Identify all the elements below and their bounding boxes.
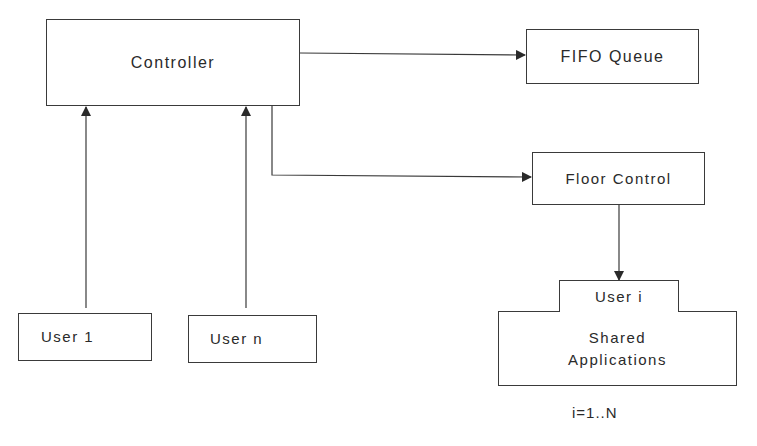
shared-applications-label-line2: Applications — [568, 349, 667, 371]
shared-applications-node: Shared Applications — [498, 311, 737, 386]
user-i-node: User i — [559, 280, 679, 312]
floor-control-node: Floor Control — [532, 152, 705, 205]
user-n-node: User n — [188, 315, 317, 363]
user-n-label: User n — [210, 329, 263, 349]
user-1-node: User 1 — [18, 313, 152, 361]
fifo-queue-node: FIFO Queue — [526, 29, 699, 84]
fifo-queue-label: FIFO Queue — [561, 47, 665, 67]
controller-label: Controller — [131, 53, 215, 73]
edge-controller-floor-control — [272, 106, 531, 177]
controller-node: Controller — [46, 19, 300, 106]
user-1-label: User 1 — [41, 327, 94, 347]
index-range-annotation: i=1..N — [572, 404, 618, 421]
user-i-label: User i — [595, 287, 643, 307]
shared-applications-label-line1: Shared — [589, 327, 646, 349]
floor-control-label: Floor Control — [565, 169, 671, 189]
edge-controller-fifo — [300, 53, 525, 55]
